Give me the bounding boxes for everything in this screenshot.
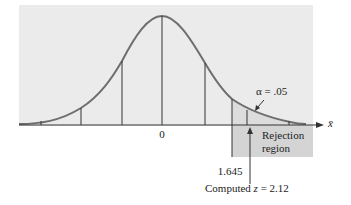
normal-curve-diagram xyxy=(0,0,351,205)
axis-variable-label: x̄ xyxy=(328,118,333,129)
center-label: 0 xyxy=(159,129,165,140)
computed-label-suffix: = 2.12 xyxy=(258,182,289,194)
computed-z-label: Computed z = 2.12 xyxy=(205,183,289,194)
rejection-region-label-line1: Rejection xyxy=(262,130,304,141)
x-axis-arrowhead xyxy=(316,122,324,128)
computed-label-prefix: Computed xyxy=(205,182,254,194)
critical-value-label: 1.645 xyxy=(218,166,243,177)
alpha-label: α = .05 xyxy=(256,86,287,97)
rejection-region-label-line2: region xyxy=(262,143,290,154)
panel-background xyxy=(19,5,313,126)
